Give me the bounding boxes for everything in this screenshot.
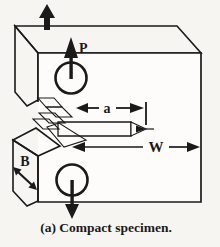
front-face — [38, 53, 201, 202]
crack-length-label: a — [104, 101, 111, 116]
compact-specimen-figure: P a W B (a) Compact specimen. — [0, 0, 220, 247]
load-label: P — [79, 41, 88, 56]
upper-left-face — [15, 26, 38, 106]
top-face — [15, 26, 201, 53]
width-label: W — [149, 139, 164, 155]
thickness-label: B — [20, 154, 29, 169]
compact-specimen-diagram: P a W B (a) Compact specimen. — [0, 0, 220, 247]
figure-caption: (a) Compact specimen. — [40, 220, 172, 235]
thickness-arrow — [13, 167, 37, 190]
